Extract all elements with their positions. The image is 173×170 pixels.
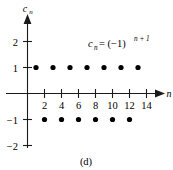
sequence-plot: 2 1 −1 −2 2 4 6 8 10 12 14 c n n c n = (… [0, 0, 173, 170]
equation-body: = (−1) [99, 38, 126, 50]
equation-lhs-subscript: n [94, 44, 98, 52]
data-point [50, 65, 55, 70]
data-point [93, 117, 98, 122]
x-tick-label-4: 4 [59, 100, 65, 111]
data-points-negative [42, 117, 132, 122]
x-tick-label-10: 10 [107, 100, 118, 111]
data-point [33, 65, 38, 70]
data-point [59, 117, 64, 122]
data-point [101, 65, 106, 70]
data-points-positive [33, 65, 140, 70]
x-tick-label-8: 8 [93, 100, 98, 111]
equation-annotation: c n = (−1) n + 1 [88, 35, 150, 52]
data-point [84, 65, 89, 70]
y-axis-label-subscript: n [29, 8, 33, 16]
data-point [67, 65, 72, 70]
figure-caption: (d) [80, 156, 93, 168]
x-tick-label-12: 12 [124, 100, 135, 111]
x-axis-label: n [167, 88, 172, 99]
x-tick-label-2: 2 [42, 100, 47, 111]
x-axis-arrow-icon [155, 90, 165, 98]
y-tick-label-neg2: −2 [7, 141, 18, 152]
data-point [118, 65, 123, 70]
equation-exponent: n + 1 [134, 35, 150, 43]
data-point [127, 117, 132, 122]
y-tick-label-neg1: −1 [7, 115, 18, 126]
equation-lhs-var: c [88, 38, 93, 49]
x-tick-label-14: 14 [141, 100, 152, 111]
data-point [110, 117, 115, 122]
figure-container: 2 1 −1 −2 2 4 6 8 10 12 14 c n n c n = (… [0, 0, 173, 170]
y-tick-label-1: 1 [13, 63, 18, 74]
data-point [42, 117, 47, 122]
y-tick-label-2: 2 [13, 37, 18, 48]
x-tick-label-6: 6 [76, 100, 81, 111]
y-axis-label-var: c [23, 3, 28, 14]
data-point [76, 117, 81, 122]
data-point [135, 65, 140, 70]
